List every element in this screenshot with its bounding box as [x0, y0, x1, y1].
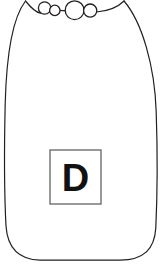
bottle-diagram-svg: D	[0, 0, 162, 265]
label-letter-d: D	[62, 157, 89, 199]
bubble-2-icon	[50, 5, 60, 15]
bubble-4-icon	[84, 4, 97, 17]
figure-root: D	[0, 0, 162, 265]
bubble-3-icon	[65, 1, 84, 20]
bottle-body-outline	[5, 1, 157, 260]
bubble-1-icon	[38, 2, 50, 14]
